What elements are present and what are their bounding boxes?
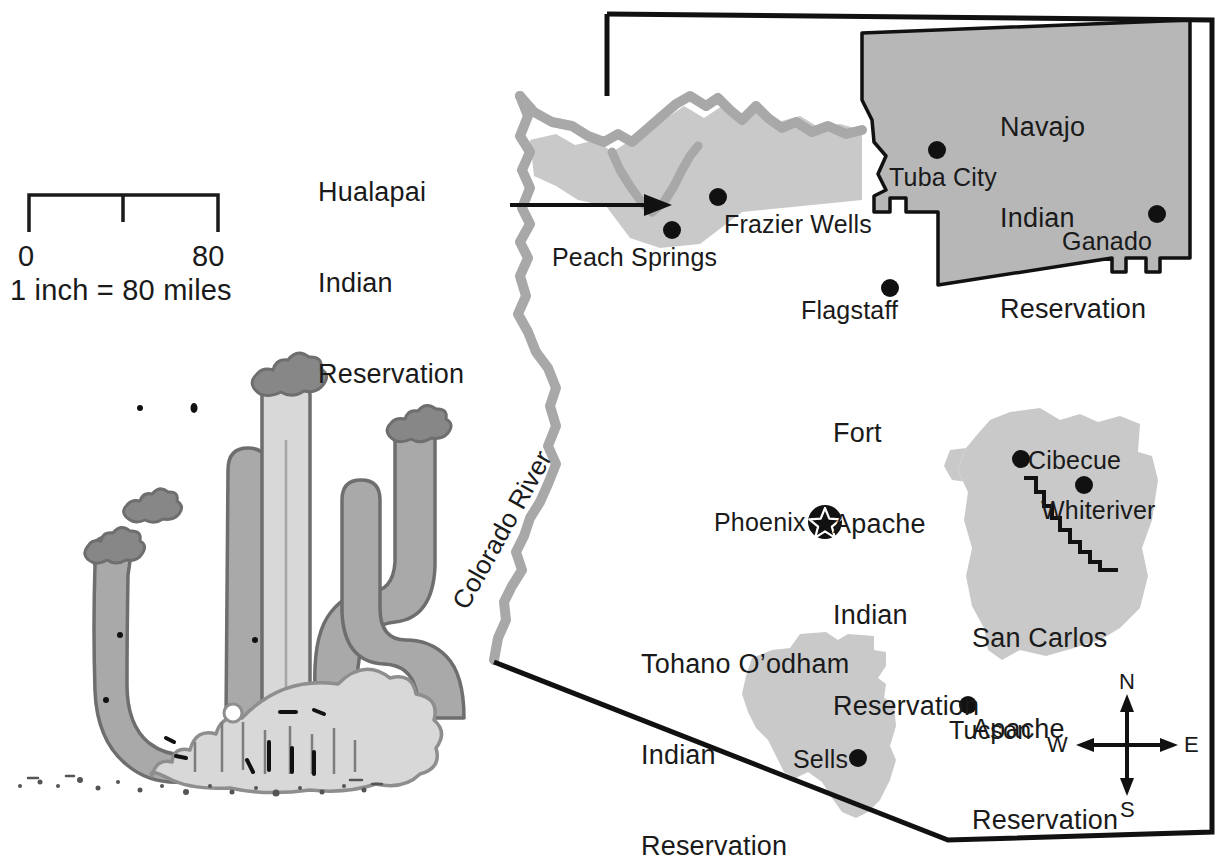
- reservation-label-line: Fort: [833, 418, 979, 448]
- map-canvas: Hualapai Indian Reservation Navajo India…: [0, 0, 1220, 859]
- city-dot-tuba-city: [928, 141, 946, 159]
- city-label-sells: Sells: [793, 745, 848, 773]
- reservation-label-line: Reservation: [1000, 294, 1146, 324]
- scale-start-label: 0: [18, 240, 34, 272]
- city-dot-frazier-wells: [709, 188, 727, 206]
- reservation-label-line: Apache: [833, 509, 979, 539]
- reservation-label-line: Reservation: [972, 805, 1118, 835]
- reservation-label-navajo: Navajo Indian Reservation: [1000, 52, 1146, 385]
- city-label-flagstaff: Flagstaff: [801, 296, 898, 324]
- reservation-label-san-carlos: San Carlos Apache Reservation: [972, 563, 1118, 859]
- reservation-label-line: Hualapai: [318, 177, 464, 207]
- city-label-ganado: Ganado: [1062, 227, 1152, 255]
- city-dot-ganado: [1148, 205, 1166, 223]
- city-label-whiteriver: Whiteriver: [1041, 496, 1156, 524]
- scale-end-label: 80: [192, 240, 225, 272]
- reservation-label-line: Indian: [833, 600, 979, 630]
- scale-caption: 1 inch = 80 miles: [10, 274, 232, 306]
- compass-label-east: E: [1184, 733, 1199, 758]
- reservation-label-line: Indian: [318, 268, 464, 298]
- city-label-tucson: Tucson: [949, 716, 1031, 744]
- reservation-label-hualapai: Hualapai Indian Reservation: [318, 117, 464, 450]
- compass-label-north: N: [1119, 670, 1135, 695]
- reservation-label-line: Reservation: [318, 359, 464, 389]
- scale-bar-graphic: [29, 195, 218, 232]
- city-label-frazier-wells: Frazier Wells: [724, 210, 872, 238]
- compass-label-south: S: [1120, 798, 1135, 823]
- reservation-label-line: Reservation: [641, 831, 849, 859]
- city-dot-whiteriver: [1075, 476, 1093, 494]
- reservation-label-tohano-oodham: Tohano O’odham Indian Reservation: [641, 589, 849, 859]
- city-label-cibecue: Cibecue: [1028, 446, 1121, 474]
- reservation-label-line: San Carlos: [972, 623, 1118, 653]
- city-label-tuba-city: Tuba City: [889, 163, 997, 191]
- city-dot-peach-springs: [663, 221, 681, 239]
- reservation-label-line: Navajo: [1000, 112, 1146, 142]
- city-dot-flagstaff: [881, 279, 899, 297]
- compass-label-west: W: [1047, 733, 1068, 758]
- reservation-label-line: Tohano O’odham: [641, 649, 849, 679]
- city-label-peach-springs: Peach Springs: [552, 243, 717, 271]
- city-label-phoenix: Phoenix: [714, 508, 806, 536]
